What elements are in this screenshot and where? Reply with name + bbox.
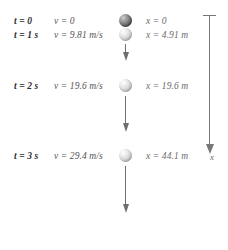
time-label: t = 2 s: [14, 79, 38, 93]
velocity-arrow-icon: [125, 44, 126, 53]
ball-icon: [119, 149, 132, 162]
velocity-label: v = 29.4 m/s: [54, 149, 103, 163]
motion-row: t = 3 s v = 29.4 m/s x = 44.1 m: [0, 149, 228, 163]
time-label: t = 0: [14, 14, 32, 28]
axis-line: [209, 16, 210, 146]
velocity-label: v = 0: [54, 14, 75, 28]
position-label: x = 44.1 m: [146, 149, 188, 163]
velocity-arrow-icon: [125, 96, 126, 124]
time-label: t = 3 s: [14, 149, 38, 163]
ball-icon: [119, 79, 132, 92]
ball-icon: [119, 14, 132, 27]
free-fall-figure: t = 0 v = 0 x = 0 t = 1 s v = 9.81 m/s x…: [0, 0, 228, 250]
time-label: t = 1 s: [14, 28, 38, 42]
motion-row: t = 2 s v = 19.6 m/s x = 19.6 m: [0, 79, 228, 93]
motion-row: t = 1 s v = 9.81 m/s x = 4.91 m: [0, 28, 228, 42]
axis-label: x: [210, 152, 214, 162]
velocity-label: v = 9.81 m/s: [54, 28, 103, 42]
velocity-label: v = 19.6 m/s: [54, 79, 103, 93]
position-label: x = 0: [146, 14, 167, 28]
position-label: x = 4.91 m: [146, 28, 188, 42]
motion-row: t = 0 v = 0 x = 0: [0, 14, 228, 28]
velocity-arrow-icon: [125, 166, 126, 205]
position-label: x = 19.6 m: [146, 79, 188, 93]
ball-icon: [119, 28, 132, 41]
